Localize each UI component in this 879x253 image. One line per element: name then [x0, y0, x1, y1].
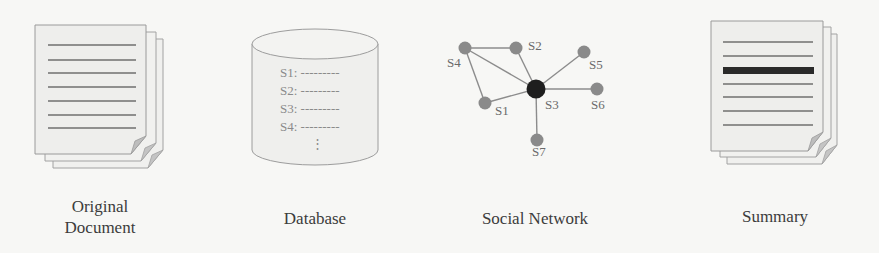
- label-database: Database: [250, 208, 380, 229]
- node-label: S7: [532, 144, 546, 159]
- summary-document-stack-icon: [711, 21, 837, 164]
- node-label: S3: [545, 97, 559, 112]
- node-label: S1: [495, 103, 509, 118]
- label-summary: Summary: [715, 206, 835, 227]
- central-node-s3: [527, 80, 546, 99]
- database-row: S2: ---------: [280, 83, 340, 98]
- node-label: S2: [528, 38, 542, 53]
- label-line: Document: [40, 217, 160, 238]
- database-row: S1: ---------: [280, 65, 340, 80]
- node-s4: [459, 42, 472, 55]
- node-s1: [479, 97, 492, 110]
- document-stack-icon: [35, 25, 163, 168]
- node-s2: [510, 42, 523, 55]
- network-edge: [465, 48, 485, 103]
- database-row: S3: ---------: [280, 101, 340, 116]
- node-label: S6: [591, 97, 605, 112]
- database-ellipsis: ⋮: [311, 136, 324, 151]
- label-original-document: Original Document: [40, 196, 160, 238]
- node-s6: [591, 83, 604, 96]
- network-graph-icon: S1S2S3S4S5S6S7: [447, 38, 605, 159]
- node-label: S5: [589, 57, 603, 72]
- highlighted-sentence: [723, 67, 814, 74]
- label-social-network: Social Network: [455, 208, 615, 229]
- node-label: S4: [447, 55, 461, 70]
- diagram-canvas: S1: --------- S2: --------- S3: --------…: [0, 0, 879, 253]
- label-line: Original: [40, 196, 160, 217]
- database-row: S4: ---------: [280, 119, 340, 134]
